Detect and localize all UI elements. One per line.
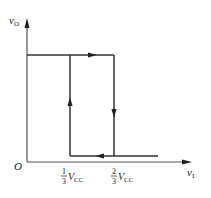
arrow-down-icon (112, 109, 117, 118)
origin-label: O (14, 160, 22, 172)
y-axis-label: vO (9, 14, 19, 28)
svg-text:2: 2 (112, 167, 116, 176)
hysteresis-diagram: vO vI O 1 3 VCC 2 3 VCC (0, 0, 211, 198)
arrow-left-icon (95, 154, 104, 159)
arrow-up-icon (68, 97, 73, 106)
svg-text:1: 1 (62, 167, 66, 176)
svg-text:VCC: VCC (68, 171, 84, 184)
x-axis-label: vI (187, 166, 195, 180)
arrow-right-icon (88, 53, 97, 58)
y-axis-arrow-icon (25, 18, 30, 28)
y-axis (25, 18, 30, 162)
x-axis (27, 160, 192, 165)
svg-text:3: 3 (112, 177, 116, 186)
tick-label-one-third-vcc: 1 3 VCC (61, 167, 84, 186)
tick-label-two-thirds-vcc: 2 3 VCC (111, 167, 134, 186)
hysteresis-loop (27, 55, 158, 156)
svg-text:3: 3 (62, 177, 66, 186)
x-axis-arrow-icon (182, 160, 192, 165)
svg-text:VCC: VCC (118, 171, 134, 184)
